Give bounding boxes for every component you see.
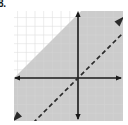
coordinate-plane bbox=[14, 11, 123, 121]
coordinate-plane-svg bbox=[14, 11, 123, 121]
grid-lines-overlay bbox=[14, 11, 123, 121]
inequality-graph-figure: 8. bbox=[0, 0, 128, 125]
item-number-label: 8. bbox=[0, 0, 6, 9]
